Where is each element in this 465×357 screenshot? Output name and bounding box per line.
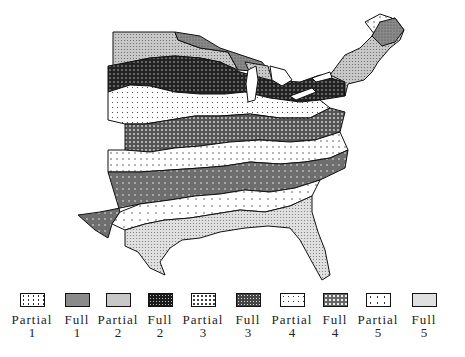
legend-swatch-partial-1 xyxy=(20,293,45,307)
legend-swatch-full-2 xyxy=(148,293,173,307)
legend-number: 5 xyxy=(355,326,401,340)
legend-swatch-partial-3 xyxy=(191,293,216,307)
legend-swatch-full-3 xyxy=(236,293,261,307)
legend-number: 1 xyxy=(9,326,55,340)
legend-item-full-5: Full 5 xyxy=(401,293,447,340)
legend-item-partial-2: Partial 2 xyxy=(95,293,141,340)
legend-swatch-full-4 xyxy=(323,293,348,307)
legend-number: 1 xyxy=(54,326,100,340)
zone-map xyxy=(0,0,465,285)
map-regions xyxy=(78,14,404,280)
legend: Partial 1 Full 1 Partial 2 Full 2 Partia… xyxy=(0,293,465,357)
legend-item-partial-1: Partial 1 xyxy=(9,293,55,340)
legend-number: 3 xyxy=(225,326,271,340)
legend-swatch-partial-5 xyxy=(366,293,391,307)
legend-item-partial-5: Partial 5 xyxy=(355,293,401,340)
legend-swatch-full-1 xyxy=(65,293,90,307)
legend-swatch-partial-4 xyxy=(280,293,305,307)
legend-number: 2 xyxy=(137,326,183,340)
legend-number: 4 xyxy=(312,326,358,340)
legend-item-full-3: Full 3 xyxy=(225,293,271,340)
legend-item-partial-3: Partial 3 xyxy=(180,293,226,340)
legend-swatch-full-5 xyxy=(412,293,437,307)
legend-number: 2 xyxy=(95,326,141,340)
legend-item-partial-4: Partial 4 xyxy=(269,293,315,340)
legend-item-full-1: Full 1 xyxy=(54,293,100,340)
legend-item-full-4: Full 4 xyxy=(312,293,358,340)
legend-item-full-2: Full 2 xyxy=(137,293,183,340)
legend-swatch-partial-2 xyxy=(106,293,131,307)
legend-number: 4 xyxy=(269,326,315,340)
legend-number: 5 xyxy=(401,326,447,340)
legend-number: 3 xyxy=(180,326,226,340)
